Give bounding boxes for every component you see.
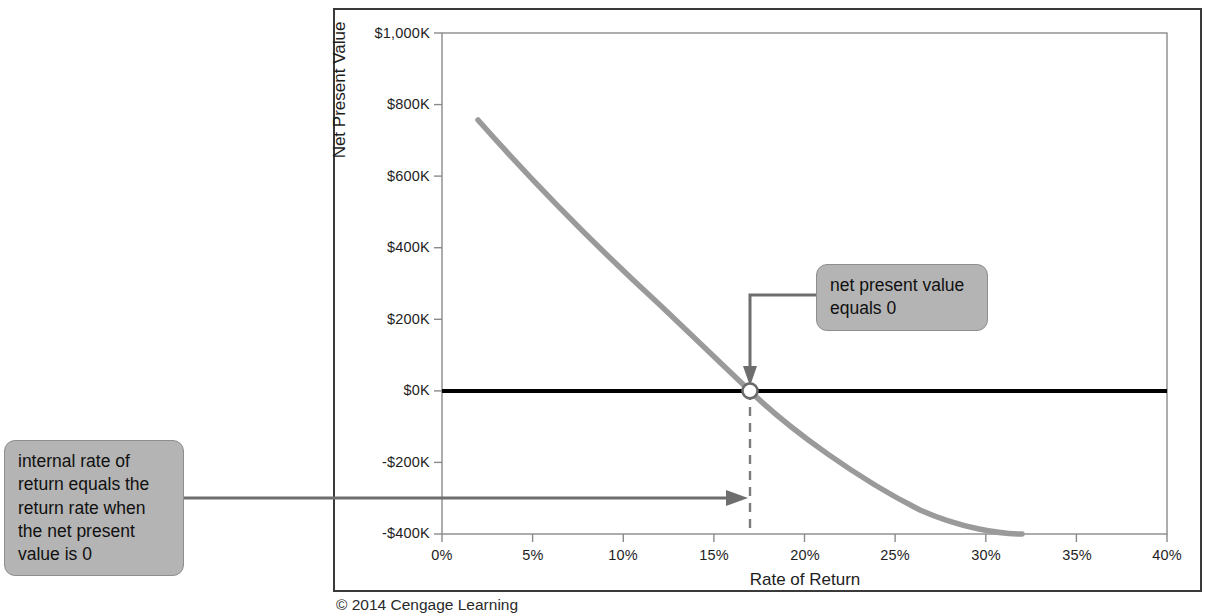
y-axis-ticks — [434, 33, 442, 534]
x-tick-label-5: 5% — [503, 547, 563, 563]
y-tick-label-1000k: $1,000K — [352, 25, 430, 41]
y-tick-label-200k: $200K — [352, 311, 430, 327]
x-tick-label-35: 35% — [1047, 547, 1107, 563]
y-axis-title: Net Present Value — [330, 0, 350, 210]
y-tick-label-neg400k: -$400K — [352, 525, 430, 541]
callout-internal-rate-of-return: internal rate of return equals the retur… — [4, 440, 184, 576]
y-tick-label-neg200k: -$200K — [352, 454, 430, 470]
copyright-credit: © 2014 Cengage Learning — [336, 596, 518, 614]
x-tick-label-20: 20% — [775, 547, 835, 563]
x-tick-label-0: 0% — [412, 547, 472, 563]
y-tick-label-400k: $400K — [352, 239, 430, 255]
y-tick-label-800k: $800K — [352, 96, 430, 112]
y-tick-label-0k: $0K — [352, 382, 430, 398]
x-tick-label-10: 10% — [593, 547, 653, 563]
y-tick-label-600k: $600K — [352, 168, 430, 184]
callout-net-present-value: net present value equals 0 — [816, 264, 988, 331]
x-axis-title: Rate of Return — [442, 570, 1168, 590]
x-tick-label-25: 25% — [865, 547, 925, 563]
figure-page: $1,000K $800K $600K $400K $200K $0K -$20… — [0, 0, 1206, 616]
x-tick-label-15: 15% — [684, 547, 744, 563]
irr-point-marker — [743, 383, 758, 398]
x-axis-ticks — [442, 534, 1167, 542]
plot-area-border — [442, 33, 1167, 534]
x-tick-label-40: 40% — [1137, 547, 1197, 563]
x-tick-label-30: 30% — [956, 547, 1016, 563]
